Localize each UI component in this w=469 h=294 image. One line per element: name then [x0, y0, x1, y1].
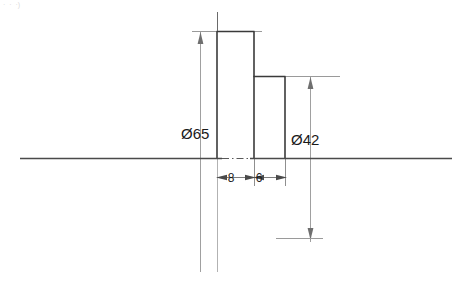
- dimension-lines-group: [192, 32, 340, 273]
- dimension-label-diameter-65: Ø65: [181, 125, 209, 142]
- dimension-label-width-8: 8: [228, 171, 235, 185]
- drawing-svg-root: Ø65 Ø42 8 6: [0, 0, 469, 294]
- dimension-text-group: Ø65 Ø42 8 6: [181, 125, 319, 185]
- arrowhead-up-65: [198, 32, 204, 44]
- arrowhead-up-42: [308, 77, 314, 89]
- engineering-drawing-canvas: · · ·): [0, 0, 469, 294]
- dimension-label-diameter-42: Ø42: [291, 131, 319, 148]
- dimension-label-width-6: 6: [256, 171, 263, 185]
- part-outline-group: [217, 32, 286, 159]
- axis-group: [20, 12, 452, 159]
